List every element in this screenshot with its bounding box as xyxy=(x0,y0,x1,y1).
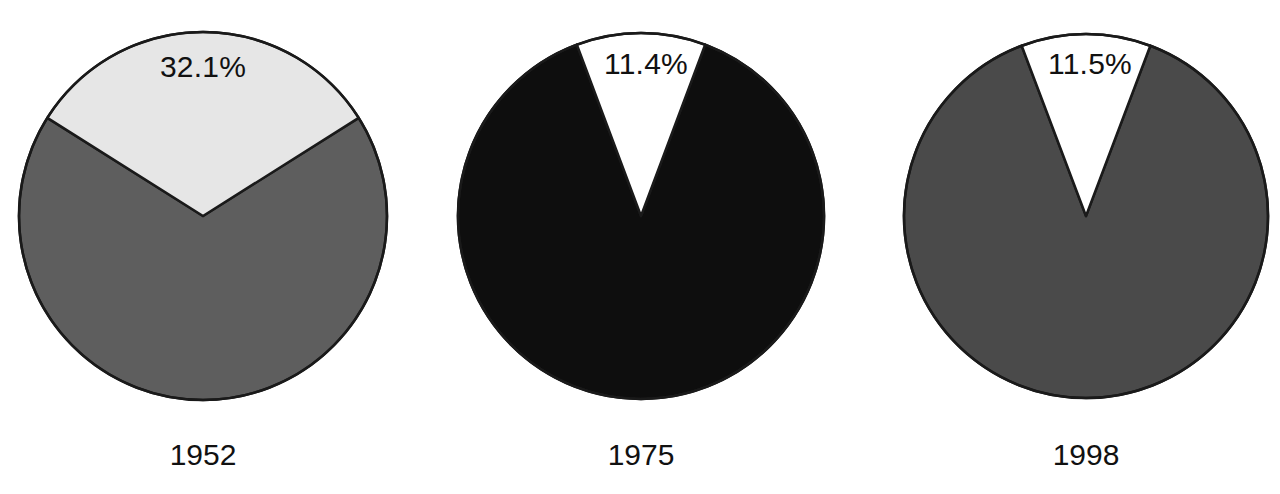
pie-slices-1952 xyxy=(19,32,387,400)
pie-value-label-1998: 11.5% xyxy=(1010,49,1170,79)
pie-value-label-1952: 32.1% xyxy=(123,52,283,82)
pie-year-caption-1975: 1975 xyxy=(511,440,771,470)
pie-slices-1975 xyxy=(458,33,824,399)
pie-year-caption-1998: 1998 xyxy=(956,440,1216,470)
pie-slices-1998 xyxy=(904,34,1268,398)
pie-panel-1998: 11.5% 1998 xyxy=(860,0,1280,494)
pie-panel-1975: 11.4% 1975 xyxy=(440,0,860,494)
pie-value-label-1975: 11.4% xyxy=(566,49,726,79)
pie-chart-figure: 32.1% 1952 11.4% 1975 11.5 xyxy=(0,0,1280,494)
pie-panel-1952: 32.1% 1952 xyxy=(0,0,440,494)
pie-year-caption-1952: 1952 xyxy=(73,440,333,470)
